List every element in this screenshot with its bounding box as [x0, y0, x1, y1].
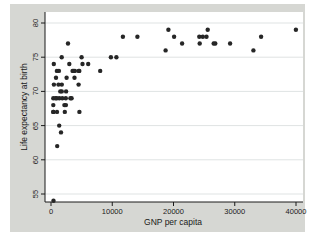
y-axis-title: Life expectancy at birth	[20, 63, 29, 150]
data-point	[67, 62, 71, 66]
data-point	[68, 96, 72, 100]
data-point	[58, 89, 62, 93]
data-point	[55, 144, 59, 148]
x-axis-title: GNP per capita	[144, 218, 202, 227]
data-point	[57, 123, 61, 127]
data-point	[135, 35, 139, 39]
data-point	[60, 96, 64, 100]
data-point	[86, 62, 90, 66]
data-point	[53, 96, 57, 100]
data-point	[51, 103, 55, 107]
data-point	[52, 62, 56, 66]
data-point	[212, 41, 216, 45]
data-point	[77, 69, 81, 73]
data-point	[163, 48, 167, 52]
data-point	[294, 28, 298, 32]
data-point	[79, 55, 83, 59]
data-point	[180, 41, 184, 45]
x-tick-label: 10000	[102, 208, 123, 216]
x-tick-label: 20000	[163, 208, 184, 216]
data-point	[55, 110, 59, 114]
data-point	[59, 130, 63, 134]
data-point	[60, 82, 64, 86]
x-tick-label: 40000	[286, 208, 307, 216]
data-point	[51, 199, 55, 203]
data-point	[64, 76, 68, 80]
data-point	[251, 48, 255, 52]
y-tick-label: 70	[32, 87, 40, 95]
data-point	[54, 76, 58, 80]
data-point	[121, 35, 125, 39]
y-tick-label: 55	[32, 190, 40, 198]
data-point	[72, 76, 76, 80]
data-point	[98, 69, 102, 73]
data-point	[114, 55, 118, 59]
data-point	[109, 55, 113, 59]
data-point	[64, 89, 68, 93]
data-point	[60, 55, 64, 59]
data-point	[57, 69, 61, 73]
data-point	[259, 35, 263, 39]
data-point	[206, 28, 210, 32]
data-point	[64, 103, 68, 107]
data-point	[198, 41, 202, 45]
x-tick-label: 30000	[224, 208, 245, 216]
data-point	[63, 110, 67, 114]
data-point	[76, 82, 80, 86]
data-point	[52, 82, 56, 86]
y-tick-label: 60	[32, 156, 40, 164]
y-tick-label: 75	[32, 53, 40, 61]
data-point	[172, 35, 176, 39]
data-point	[80, 62, 84, 66]
data-point	[66, 41, 70, 45]
data-point	[228, 41, 232, 45]
data-point	[166, 28, 170, 32]
stata-scatter-graph: GNP per capita Life expectancy at birth …	[0, 0, 321, 251]
data-point	[201, 35, 205, 39]
data-point	[70, 69, 74, 73]
y-tick-label: 65	[32, 121, 40, 129]
x-tick-label: 0	[49, 208, 53, 216]
y-tick-label: 80	[32, 19, 40, 27]
data-point	[77, 110, 81, 114]
